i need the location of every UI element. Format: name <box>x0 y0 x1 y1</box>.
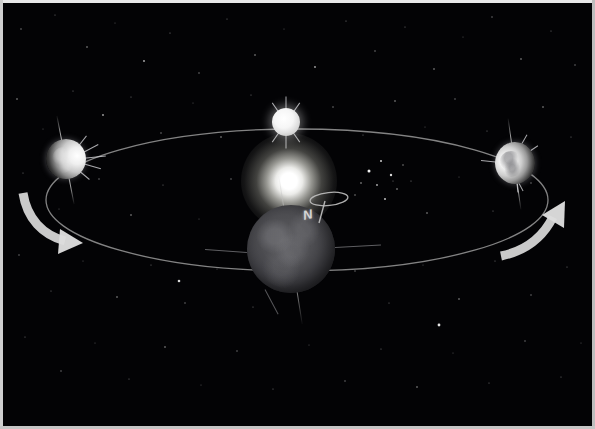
night-sky-background: N <box>3 3 592 426</box>
rotation-direction-arrow-right[interactable] <box>501 201 565 256</box>
rotation-direction-arrow-left[interactable] <box>23 193 83 254</box>
astronomy-diagram-scene: N <box>0 0 595 429</box>
direction-arrows-layer <box>3 3 592 426</box>
